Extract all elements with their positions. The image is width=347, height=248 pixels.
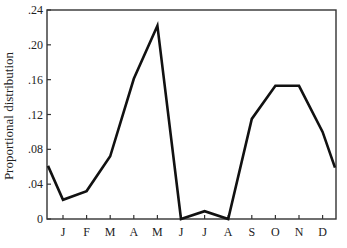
x-tick-label: J [179,225,184,239]
y-tick-label: .04 [28,177,43,191]
x-tick-label: N [295,225,304,239]
y-tick-label: .24 [28,3,43,17]
figure-caption-cutoff [40,240,340,248]
y-tick-label: .20 [28,38,43,52]
x-tick-label: A [224,225,233,239]
y-tick-label: .08 [28,142,43,156]
x-tick-label: O [271,225,280,239]
data-line [48,26,335,219]
x-tick-label: D [318,225,327,239]
x-tick-label: J [61,225,66,239]
line-chart: 0.04.08.12.16.20.24 JFMAMJJASOND [0,0,347,248]
x-tick-label: J [202,225,207,239]
x-tick-label: F [83,225,90,239]
y-tick-label: .12 [28,108,43,122]
y-tick-label: 0 [37,212,43,226]
x-tick-label: M [152,225,163,239]
x-tick-label: M [105,225,116,239]
x-tick-label: S [248,225,255,239]
x-tick-label: A [129,225,138,239]
y-tick-label: .16 [28,73,43,87]
y-axis-label: Proportional distribution [1,51,17,181]
